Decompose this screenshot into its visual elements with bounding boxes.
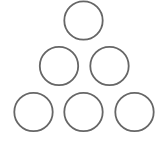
circle — [14, 93, 52, 131]
circle — [40, 47, 78, 85]
circle — [90, 47, 128, 85]
circle-triangle-diagram — [0, 0, 164, 147]
row-2 — [40, 47, 129, 85]
row-3 — [14, 93, 153, 131]
circle — [64, 1, 102, 39]
row-1 — [64, 1, 102, 39]
circle — [64, 93, 102, 131]
circle — [115, 93, 153, 131]
